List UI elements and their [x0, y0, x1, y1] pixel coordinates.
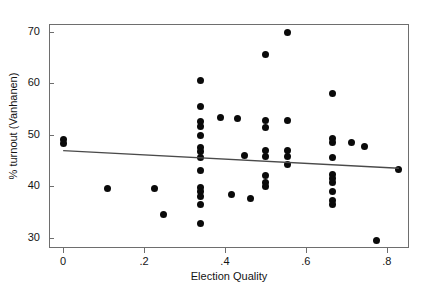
x-tick-mark: [225, 248, 226, 253]
data-point: [329, 188, 336, 195]
data-point: [395, 166, 402, 173]
data-point: [361, 143, 368, 150]
data-point: [151, 185, 158, 192]
data-point: [329, 90, 336, 97]
data-point: [262, 51, 269, 58]
x-tick-label: .8: [367, 256, 407, 267]
data-point: [197, 193, 204, 200]
y-tick-label: 30: [14, 232, 40, 243]
data-point: [262, 124, 269, 131]
x-tick-label: 0: [43, 256, 83, 267]
data-point: [197, 77, 204, 84]
data-point: [160, 211, 167, 218]
data-point: [197, 220, 204, 227]
data-point: [284, 161, 291, 168]
y-tick-label: 70: [14, 26, 40, 37]
x-tick-mark: [63, 248, 64, 253]
x-tick-label: .4: [205, 256, 245, 267]
data-point: [197, 167, 204, 174]
data-point: [217, 114, 224, 121]
x-tick-mark: [387, 248, 388, 253]
data-point: [234, 115, 241, 122]
data-points-layer: [49, 24, 409, 248]
x-tick-mark: [306, 248, 307, 253]
data-point: [104, 185, 111, 192]
data-point: [247, 195, 254, 202]
data-point: [262, 153, 269, 160]
data-point: [329, 201, 336, 208]
x-axis-label: Election Quality: [49, 270, 409, 282]
y-axis-label: % turnout (Vanhanen): [7, 66, 19, 186]
data-point: [262, 183, 269, 190]
data-point: [284, 153, 291, 160]
data-point: [228, 191, 235, 198]
data-point: [329, 179, 336, 186]
data-point: [197, 201, 204, 208]
scatter-plot-figure: 3040506070 0.2.4.6.8 % turnout (Vanhanen…: [0, 0, 421, 297]
data-point: [348, 139, 355, 146]
data-point: [197, 132, 204, 139]
data-point: [329, 154, 336, 161]
x-tick-label: .6: [286, 256, 326, 267]
x-tick-label: .2: [124, 256, 164, 267]
data-point: [284, 117, 291, 124]
data-point: [197, 103, 204, 110]
data-point: [60, 140, 67, 147]
data-point: [197, 123, 204, 130]
data-point: [329, 139, 336, 146]
data-point: [197, 154, 204, 161]
data-point: [262, 117, 269, 124]
data-point: [241, 152, 248, 159]
x-tick-mark: [144, 248, 145, 253]
data-point: [284, 29, 291, 36]
data-point: [373, 237, 380, 244]
